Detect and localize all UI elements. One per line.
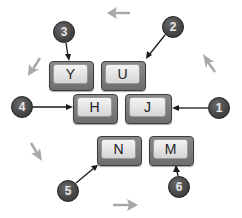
key-cap: N [101, 139, 136, 159]
key-label: J [144, 99, 151, 115]
key-label: H [89, 99, 99, 115]
arrow-right-icon [113, 199, 138, 211]
direction-hint-arrows [0, 0, 242, 218]
arrow-up-left-icon [203, 54, 215, 72]
key-m: M [149, 136, 194, 166]
key-cap: M [153, 139, 188, 159]
key-label: M [165, 141, 177, 157]
callout-badge-2: 2 [162, 16, 184, 38]
callout-badge-5: 5 [57, 180, 79, 202]
key-label: U [117, 66, 127, 82]
callout-number: 2 [170, 20, 177, 34]
callout-badge-3: 3 [53, 21, 75, 43]
callout-number: 4 [19, 100, 26, 114]
arrow-left-icon [107, 7, 130, 19]
key-u: U [101, 61, 146, 91]
callout-number: 3 [61, 25, 68, 39]
key-cap: U [105, 64, 140, 84]
callout-badge-6: 6 [168, 176, 190, 198]
key-label: N [113, 141, 123, 157]
key-cap: Y [53, 64, 88, 84]
keyboard-key-diagram: Y U H J N M 1 2 3 4 5 [0, 0, 242, 218]
key-label: Y [66, 66, 75, 82]
callout-number: 5 [65, 184, 72, 198]
callout-number: 1 [216, 101, 223, 115]
arrow-down-right-icon [31, 143, 42, 161]
key-h: H [73, 94, 118, 124]
key-cap: H [77, 97, 112, 117]
key-j: J [125, 94, 172, 124]
callout-number: 6 [176, 180, 183, 194]
key-cap: J [129, 97, 166, 117]
callout-badge-1: 1 [208, 97, 230, 119]
key-y: Y [49, 61, 94, 91]
callout-badge-4: 4 [11, 96, 33, 118]
arrow-down-left-icon [28, 58, 40, 76]
key-n: N [97, 136, 142, 166]
